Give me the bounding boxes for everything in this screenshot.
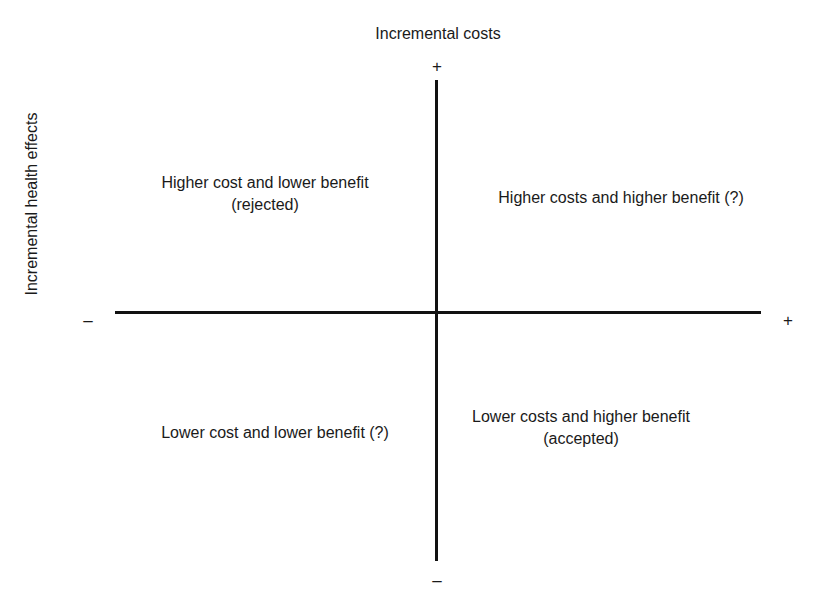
- vertical-axis-line: [435, 80, 438, 561]
- vertical-axis-title: Incremental costs: [288, 24, 588, 44]
- quadrant-label-top-right-line1: Higher costs and higher benefit (?): [447, 187, 795, 209]
- horizontal-axis-negative-sign: –: [70, 312, 106, 329]
- quadrant-label-bottom-right-line2: (accepted): [450, 428, 712, 450]
- quadrant-label-top-left: Higher cost and lower benefit (rejected): [105, 172, 425, 216]
- horizontal-axis-line: [115, 311, 761, 314]
- quadrant-label-top-left-line2: (rejected): [105, 194, 425, 216]
- quadrant-label-bottom-left: Lower cost and lower benefit (?): [115, 422, 435, 444]
- vertical-axis-positive-sign: +: [415, 58, 459, 75]
- quadrant-label-bottom-right: Lower costs and higher benefit (accepted…: [450, 406, 712, 450]
- quadrant-label-bottom-left-line1: Lower cost and lower benefit (?): [115, 422, 435, 444]
- vertical-axis-negative-sign: –: [415, 572, 459, 589]
- cost-effectiveness-plane-diagram: Incremental costs Incremental health eff…: [0, 0, 828, 602]
- quadrant-label-top-right: Higher costs and higher benefit (?): [447, 187, 795, 209]
- quadrant-label-bottom-right-line1: Lower costs and higher benefit: [450, 406, 712, 428]
- horizontal-axis-title-container: Incremental health effects: [20, 54, 44, 354]
- horizontal-axis-title: Incremental health effects: [20, 54, 44, 354]
- horizontal-axis-positive-sign: +: [770, 312, 806, 329]
- quadrant-label-top-left-line1: Higher cost and lower benefit: [105, 172, 425, 194]
